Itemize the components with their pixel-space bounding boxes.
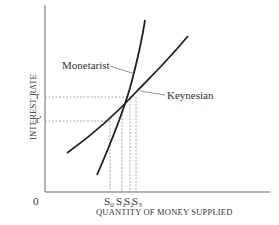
- y-tick-r-prime: r′: [36, 115, 42, 125]
- origin-label: 0: [33, 196, 39, 207]
- diagram-canvas: [0, 0, 279, 225]
- keynesian-label: Keynesian: [167, 90, 213, 101]
- monetarist-leader: [110, 66, 135, 74]
- x-axis-label: QUANTITY OF MONEY SUPPLIED: [96, 208, 233, 217]
- y-axis-label: INTEREST RATE: [28, 74, 38, 140]
- monetarist-label: Monetarist: [62, 60, 110, 71]
- keynesian-leader: [140, 91, 165, 95]
- monetarist-curve: [97, 20, 145, 175]
- y-tick-r: r: [36, 91, 39, 101]
